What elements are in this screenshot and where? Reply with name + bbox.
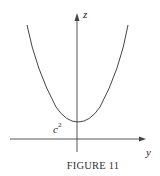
y-axis-label: y [146,146,151,158]
minimum-label-exponent: 2 [58,121,62,129]
parabola-curve [27,25,128,122]
minimum-value-label: c2 [53,122,61,135]
horizontal-axis-arrow-icon [139,137,146,142]
vertical-axis-arrow-icon [75,13,80,21]
figure-canvas [0,0,160,176]
figure-caption: FIGURE 11 [0,160,160,171]
z-axis-label: z [83,8,87,20]
